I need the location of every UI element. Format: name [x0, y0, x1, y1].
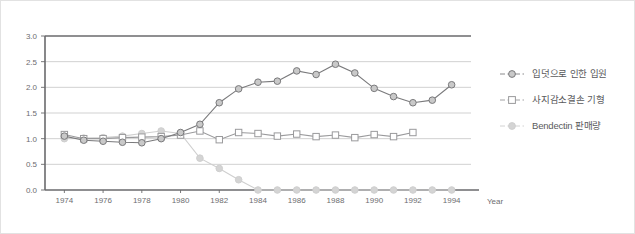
svg-text:1976: 1976: [94, 196, 112, 205]
svg-text:1.5: 1.5: [26, 109, 38, 118]
svg-text:1974: 1974: [55, 196, 73, 205]
legend-item-limb-defect[interactable]: 사지감소결손 기형: [499, 87, 631, 113]
chart-legend: 입덧으로 인한 입원 사지감소결손 기형 Bendectin 판매량: [499, 61, 631, 139]
svg-text:0.5: 0.5: [26, 160, 38, 169]
svg-text:1982: 1982: [210, 196, 228, 205]
svg-text:2.5: 2.5: [26, 58, 38, 67]
data-series-group: [61, 61, 455, 193]
svg-text:1.0: 1.0: [26, 135, 38, 144]
chart-axes: [41, 36, 479, 193]
x-axis-title: Year: [487, 197, 504, 206]
legend-label-bendectin-sales: Bendectin 판매량: [532, 120, 601, 132]
x-axis-tick-labels: 1974197619781980198219841986198819901992…: [55, 196, 461, 205]
svg-text:3.0: 3.0: [26, 32, 38, 41]
svg-text:1988: 1988: [327, 196, 345, 205]
grid-lines: [45, 62, 471, 165]
svg-text:1992: 1992: [404, 196, 422, 205]
square-open-marker-icon: [499, 94, 525, 106]
svg-text:1980: 1980: [172, 196, 190, 205]
chart-figure: 1974197619781980198219841986198819901992…: [0, 0, 635, 234]
svg-text:2.0: 2.0: [26, 83, 38, 92]
legend-item-hospitalization[interactable]: 입덧으로 인한 입원: [499, 61, 631, 87]
y-axis-tick-labels: 0.00.51.01.52.02.53.0: [26, 32, 38, 195]
circle-filled-marker-icon: [499, 120, 525, 132]
legend-item-bendectin-sales[interactable]: Bendectin 판매량: [499, 113, 631, 139]
svg-text:1984: 1984: [249, 196, 267, 205]
legend-label-hospitalization: 입덧으로 인한 입원: [532, 68, 607, 80]
circle-open-marker-icon: [499, 68, 525, 80]
legend-label-limb-defect: 사지감소결손 기형: [532, 94, 605, 106]
svg-text:1994: 1994: [443, 196, 461, 205]
svg-text:1986: 1986: [288, 196, 306, 205]
svg-text:1990: 1990: [365, 196, 383, 205]
svg-text:1978: 1978: [133, 196, 151, 205]
svg-text:0.0: 0.0: [26, 186, 38, 195]
